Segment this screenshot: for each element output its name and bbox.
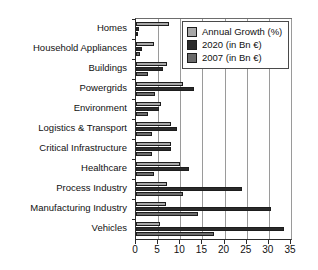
- bar: [136, 187, 242, 191]
- x-tick-label: 0: [132, 245, 138, 255]
- bar-group: [136, 99, 291, 119]
- y-tick: [132, 79, 136, 80]
- bar: [136, 162, 180, 166]
- bar-group: [136, 179, 291, 199]
- category-label: Homes: [0, 18, 131, 38]
- bar: [136, 67, 163, 71]
- bar: [136, 72, 148, 76]
- bar-chart: HomesHousehold AppliancesBuildingsPowerg…: [0, 0, 318, 270]
- bar: [136, 42, 154, 46]
- chart-legend: Annual Growth (%)2020 (in Bn €)2007 (in …: [182, 21, 289, 69]
- bar: [136, 127, 177, 131]
- bar: [136, 172, 154, 176]
- bar: [136, 87, 194, 91]
- legend-label: Annual Growth (%): [202, 27, 282, 37]
- bar: [136, 222, 160, 226]
- y-tick: [132, 179, 136, 180]
- x-tick-label: 10: [174, 245, 185, 255]
- bar: [136, 47, 142, 51]
- bar: [136, 92, 155, 96]
- bar: [136, 112, 148, 116]
- bar: [136, 132, 152, 136]
- bar: [136, 142, 171, 146]
- bar: [136, 192, 183, 196]
- bar: [136, 232, 214, 236]
- category-label: Process Industry: [0, 178, 131, 198]
- category-label: Healthcare: [0, 158, 131, 178]
- bar: [136, 82, 183, 86]
- y-tick: [132, 19, 136, 20]
- legend-label: 2020 (in Bn €): [202, 40, 262, 50]
- legend-swatch-icon: [187, 53, 197, 63]
- legend-item[interactable]: 2007 (in Bn €): [187, 51, 284, 64]
- category-label: Critical Infrastructure: [0, 138, 131, 158]
- category-label: Manufacturing Industry: [0, 198, 131, 218]
- y-tick: [132, 59, 136, 60]
- bar: [136, 122, 171, 126]
- y-tick: [132, 199, 136, 200]
- x-tick-label: 15: [196, 245, 207, 255]
- bar: [136, 212, 198, 216]
- bar-group: [136, 119, 291, 139]
- y-tick: [132, 159, 136, 160]
- bar: [136, 62, 167, 66]
- x-tick-label: 30: [262, 245, 273, 255]
- x-tick-label: 20: [218, 245, 229, 255]
- category-label: Vehicles: [0, 218, 131, 238]
- legend-label: 2007 (in Bn €): [202, 53, 262, 63]
- bar-group: [136, 159, 291, 179]
- bar: [136, 22, 169, 26]
- bar: [136, 107, 159, 111]
- bar-group: [136, 219, 291, 239]
- category-label: Household Appliances: [0, 38, 131, 58]
- y-tick: [132, 39, 136, 40]
- legend-item[interactable]: Annual Growth (%): [187, 25, 284, 38]
- x-tick-label: 35: [284, 245, 295, 255]
- gridline: [291, 19, 292, 239]
- y-tick: [132, 99, 136, 100]
- bar: [136, 27, 139, 31]
- bar: [136, 152, 152, 156]
- bar-group: [136, 79, 291, 99]
- category-label: Environment: [0, 98, 131, 118]
- legend-swatch-icon: [187, 27, 197, 37]
- x-tick-label: 25: [240, 245, 251, 255]
- bar: [136, 32, 138, 36]
- bar: [136, 182, 167, 186]
- bar: [136, 102, 161, 106]
- bar: [136, 167, 189, 171]
- y-tick: [132, 219, 136, 220]
- bar: [136, 147, 171, 151]
- bar: [136, 52, 140, 56]
- x-tick-label: 5: [154, 245, 160, 255]
- category-label: Powergrids: [0, 78, 131, 98]
- category-axis: HomesHousehold AppliancesBuildingsPowerg…: [0, 18, 131, 238]
- bar: [136, 227, 284, 231]
- category-label: Buildings: [0, 58, 131, 78]
- bar: [136, 202, 166, 206]
- legend-swatch-icon: [187, 40, 197, 50]
- y-tick: [132, 119, 136, 120]
- bar: [136, 207, 271, 211]
- y-tick: [132, 139, 136, 140]
- bar-group: [136, 139, 291, 159]
- x-axis: 05101520253035: [135, 239, 290, 265]
- legend-item[interactable]: 2020 (in Bn €): [187, 38, 284, 51]
- bar-group: [136, 199, 291, 219]
- category-label: Logistics & Transport: [0, 118, 131, 138]
